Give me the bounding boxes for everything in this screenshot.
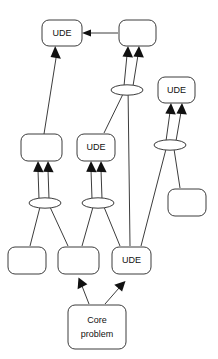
node-core-problem-shape[interactable] [68,305,126,349]
and-connector-lower-center[interactable] [82,198,114,208]
edge-and-lower-left-to-box-mid-left-a [33,161,43,199]
node-ude-bottom-right-label: UDE [122,255,141,265]
edge-and-lower-center-to-ude-mid-center-a [86,161,96,199]
edge-and-right-to-ude-right-b [176,103,187,141]
edge-core-problem-to-ude-bottom-right [105,281,126,304]
node-box-mid-left[interactable] [21,134,62,161]
node-ude-mid-center[interactable]: UDE [77,134,115,161]
node-ude-top-left[interactable]: UDE [42,20,82,46]
diagram-canvas: UDE UDE UDE [0,0,218,359]
edge-ude-bottom-right-to-and-right [141,149,166,246]
edge-box-mid-right-to-and-right [174,149,180,188]
node-ude-bottom-right[interactable]: UDE [112,247,151,274]
node-box-bottom-center[interactable] [58,247,99,274]
node-ude-mid-center-label: UDE [86,142,105,152]
node-ude-right-label: UDE [167,85,186,95]
node-box-mid-right[interactable] [168,189,206,216]
node-box-mid-right-shape[interactable] [168,189,206,216]
node-ude-right[interactable]: UDE [158,77,195,103]
edge-ude-bottom-right-to-and-lower-center [104,207,120,246]
edge-and-lower-center-to-ude-mid-center-b [96,161,106,199]
edge-core-problem-to-box-bottom-center [78,278,89,305]
node-box-top-right-shape[interactable] [119,20,156,46]
node-box-mid-left-shape[interactable] [21,134,62,161]
node-box-bottom-left-shape[interactable] [8,247,46,274]
node-core-problem[interactable]: Core problem [68,305,126,349]
node-core-problem-label-line1: Core [87,315,107,325]
node-core-problem-label-line2: problem [81,329,114,339]
edge-ude-mid-center-to-and-upper-center [104,92,124,133]
edge-box-bottom-center-to-and-lower-center [82,207,93,246]
edge-box-top-right-to-ude-top-left [82,30,118,37]
edge-box-bottom-center-to-and-lower-left [50,207,68,246]
edge-box-mid-left-to-ude-top-left [44,46,61,134]
edge-box-bottom-left-to-and-lower-left [30,207,40,246]
node-ude-top-left-label: UDE [52,28,71,38]
and-connector-upper-center[interactable] [111,85,143,95]
edge-and-upper-center-to-box-top-right-b [133,46,144,86]
and-connector-right[interactable] [154,140,186,150]
node-box-bottom-left[interactable] [8,247,46,274]
and-connector-lower-left[interactable] [29,198,61,208]
node-box-bottom-center-shape[interactable] [58,247,99,274]
edge-and-upper-center-to-box-top-right-a [123,46,134,86]
edge-ude-bottom-right-to-and-upper-center [128,86,130,246]
edge-and-lower-left-to-box-mid-left-b [43,161,53,199]
edge-and-right-to-ude-right-a [165,103,176,141]
current-reality-tree-diagram: UDE UDE UDE [0,0,218,359]
node-box-top-right[interactable] [119,20,156,46]
